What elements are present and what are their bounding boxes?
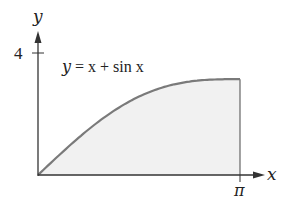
x-axis-arrow-icon — [253, 172, 265, 179]
y-axis-arrow-icon — [35, 31, 42, 43]
equation-rhs: = x + sin x — [71, 58, 144, 75]
x-tick-label: π — [233, 181, 245, 200]
equation-annotation: y = x + sin x — [61, 57, 144, 76]
shaded-area — [38, 79, 240, 175]
y-tick-label: 4 — [14, 44, 23, 63]
x-axis-label: x — [267, 164, 277, 184]
y-axis-label: y — [32, 6, 43, 26]
area-under-curve-chart: y 4 x π y = x + sin x — [0, 0, 285, 204]
